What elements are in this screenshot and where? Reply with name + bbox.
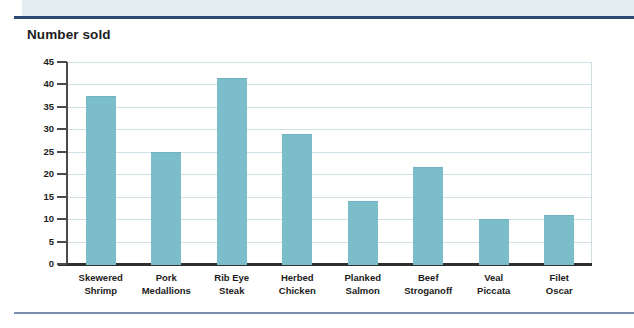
x-axis-category-label-line: Beef (396, 272, 462, 285)
y-axis-tick-label-text: 20 (8, 168, 54, 179)
y-axis-tick-label-text: 45 (8, 56, 54, 67)
bar (86, 96, 116, 265)
x-axis-category-label: VealPiccata (461, 272, 527, 297)
y-axis-tick (57, 151, 67, 153)
y-axis-tick-label-text: 5 (8, 236, 54, 247)
y-axis-tick-label: 10 (0, 213, 54, 225)
x-axis-category-label-line: Skewered (68, 272, 134, 285)
x-axis-category-label-line: Planked (330, 272, 396, 285)
bar (479, 219, 509, 265)
y-axis-tick (57, 196, 67, 198)
y-axis-tick-label: 5 (0, 236, 54, 248)
y-axis-tick (57, 218, 67, 220)
gridline (68, 62, 591, 63)
y-axis-tick-label: 35 (0, 101, 54, 113)
x-axis-category-label-line: Herbed (265, 272, 331, 285)
y-axis-tick (57, 106, 67, 108)
y-axis-tick-label: 15 (0, 191, 54, 203)
y-axis-tick (57, 128, 67, 130)
y-axis-tick (57, 61, 67, 63)
x-axis-category-label-line: Stroganoff (396, 285, 462, 298)
x-axis-category-label: FiletOscar (527, 272, 593, 297)
gridline (68, 242, 591, 243)
y-axis-tick (57, 241, 67, 243)
x-axis-category-label-line: Chicken (265, 285, 331, 298)
y-axis-tick-label-text: 40 (8, 78, 54, 89)
x-axis-category-label-line: Oscar (527, 285, 593, 298)
bar (282, 134, 312, 265)
x-axis-category-label-line: Steak (199, 285, 265, 298)
y-axis-tick-label-text: 15 (8, 191, 54, 202)
x-axis-category-label-line: Shrimp (68, 285, 134, 298)
bar (217, 78, 247, 265)
x-axis-category-label: SkeweredShrimp (68, 272, 134, 297)
x-axis-category-label-line: Medallions (134, 285, 200, 298)
gridline (68, 219, 591, 220)
x-axis-category-label-line: Rib Eye (199, 272, 265, 285)
x-axis-category-label: HerbedChicken (265, 272, 331, 297)
x-axis-category-label-line: Filet (527, 272, 593, 285)
x-axis-category-label: PlankedSalmon (330, 272, 396, 297)
y-axis-tick-label: 20 (0, 168, 54, 180)
x-axis-category-label: BeefStroganoff (396, 272, 462, 297)
y-axis-tick-label: 0 (0, 258, 54, 270)
x-axis-category-label: PorkMedallions (134, 272, 200, 297)
y-axis-tick-label: 40 (0, 78, 54, 90)
x-axis-line (58, 263, 592, 266)
plot-area (68, 62, 592, 264)
gridline (68, 107, 591, 108)
chart-page: Number sold 454035302520151050SkeweredSh… (0, 0, 634, 328)
y-axis-tick-label-text: 10 (8, 213, 54, 224)
y-axis-tick (57, 173, 67, 175)
gridline (68, 129, 591, 130)
x-axis-category-label-line: Veal (461, 272, 527, 285)
y-axis-tick-label-text: 0 (8, 258, 54, 269)
bar (413, 167, 443, 265)
y-axis-tick (57, 263, 67, 265)
gridline (68, 197, 591, 198)
y-axis-tick-label: 25 (0, 146, 54, 158)
x-axis-category-label: Rib EyeSteak (199, 272, 265, 297)
gridline (68, 152, 591, 153)
x-axis-category-label-line: Pork (134, 272, 200, 285)
bar (348, 201, 378, 265)
y-axis-line (66, 62, 68, 265)
bar (544, 215, 574, 265)
y-axis-tick-label: 30 (0, 123, 54, 135)
gridline (68, 174, 591, 175)
y-axis-tick-label-text: 25 (8, 146, 54, 157)
y-axis-tick (57, 83, 67, 85)
y-axis-tick-label-text: 35 (8, 101, 54, 112)
bar (151, 152, 181, 265)
x-axis-category-label-line: Salmon (330, 285, 396, 298)
x-axis-category-label-line: Piccata (461, 285, 527, 298)
y-axis-tick-label: 45 (0, 56, 54, 68)
bottom-divider-rule (14, 312, 634, 314)
y-axis-tick-label-text: 30 (8, 123, 54, 134)
gridline (68, 84, 591, 85)
